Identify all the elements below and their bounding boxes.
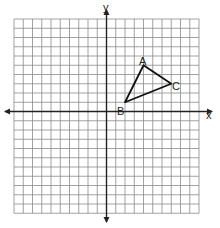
grid-svg — [0, 0, 220, 228]
y-axis-label: y — [103, 2, 109, 13]
vertex-label-b: B — [117, 106, 124, 117]
x-axis-left-arrow-icon — [4, 109, 10, 115]
coordinate-plane: y x A B C — [0, 0, 220, 228]
vertex-label-c: C — [172, 81, 180, 92]
x-axis-label: x — [206, 110, 212, 121]
vertex-label-a: A — [139, 56, 146, 67]
y-axis-down-arrow-icon — [104, 217, 110, 223]
